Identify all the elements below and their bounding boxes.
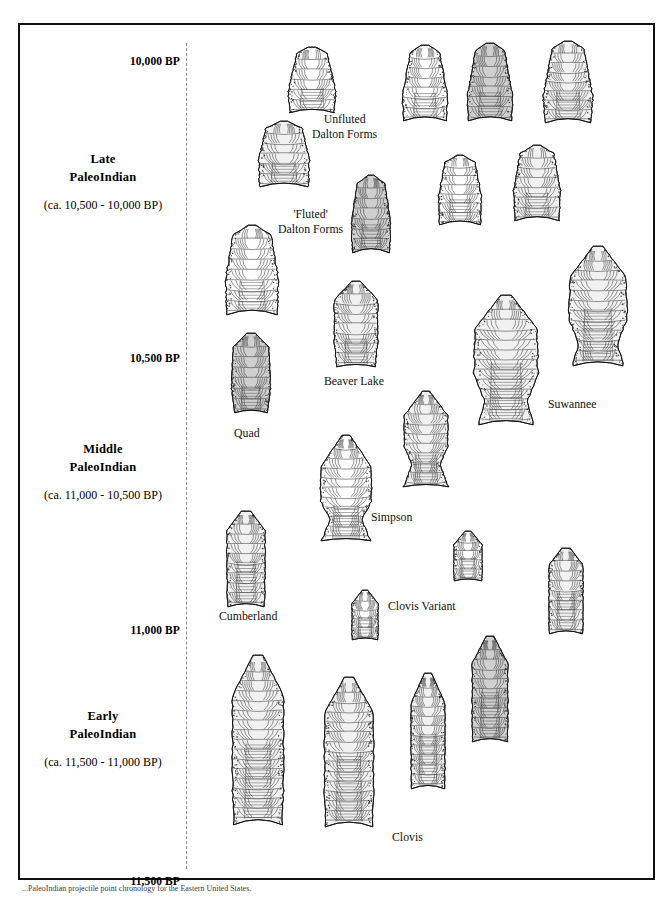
- period-name-line2-late: PaleoIndian: [20, 168, 186, 186]
- period-range-late: (ca. 10,500 - 10,000 BP): [20, 197, 186, 214]
- point-label-fluted-dalton: 'Fluted'Dalton Forms: [278, 207, 343, 236]
- projectile-point-dalton-unfluted-4: [542, 40, 594, 124]
- projectile-point-clovis-variant-1: [452, 530, 484, 582]
- axis-tick-10000: 10,000 BP: [20, 55, 180, 67]
- period-block-early: EarlyPaleoIndian(ca. 11,500 - 11,000 BP): [20, 707, 186, 772]
- projectile-point-cumberland-1: [225, 510, 267, 608]
- period-name-line1-middle: Middle: [20, 440, 186, 458]
- point-label-suwannee: Suwannee: [548, 397, 596, 412]
- point-label-line1-cumberland: Cumberland: [219, 609, 277, 624]
- point-label-line2-fluted-dalton: Dalton Forms: [278, 222, 343, 237]
- point-label-unfluted-dalton: UnflutedDalton Forms: [312, 112, 377, 141]
- projectile-point-dalton-fluted-2: [350, 174, 392, 254]
- projectile-point-dalton-fluted-1: [257, 120, 311, 188]
- projectile-point-suwannee-1: [472, 294, 540, 426]
- projectile-point-clovis-3: [409, 672, 447, 790]
- projectile-point-dalton-large-1: [224, 224, 280, 316]
- point-label-line1-beaver-lake: Beaver Lake: [324, 374, 384, 389]
- projectile-point-clovis-4: [470, 635, 510, 743]
- projectile-point-simpson-2: [402, 390, 450, 488]
- projectile-point-dalton-unfluted-2: [401, 44, 449, 122]
- projectile-point-dalton-fluted-4: [512, 144, 562, 222]
- point-label-simpson: Simpson: [371, 510, 412, 525]
- point-label-line1-simpson: Simpson: [371, 510, 412, 525]
- period-name-line2-middle: PaleoIndian: [20, 458, 186, 476]
- period-block-late: LatePaleoIndian(ca. 10,500 - 10,000 BP): [20, 150, 186, 215]
- projectile-point-suwannee-2: [567, 245, 629, 367]
- period-range-early: (ca. 11,500 - 11,000 BP): [20, 754, 186, 771]
- point-label-beaver-lake: Beaver Lake: [324, 374, 384, 389]
- projectile-point-clovis-2: [322, 676, 376, 828]
- period-name-line1-late: Late: [20, 150, 186, 168]
- projectile-point-clovis-variant-3: [547, 547, 585, 635]
- projectile-point-dalton-unfluted-1: [287, 46, 337, 114]
- projectile-point-beaver-lake-1: [332, 280, 380, 368]
- point-label-line1-clovis-variant: Clovis Variant: [388, 599, 456, 614]
- point-label-line1-clovis: Clovis: [392, 830, 423, 845]
- point-label-line1-suwannee: Suwannee: [548, 397, 596, 412]
- projectile-point-clovis-1: [230, 654, 286, 826]
- axis-tick-10500: 10,500 BP: [20, 352, 180, 364]
- projectile-point-dalton-fluted-3: [437, 154, 483, 226]
- period-name-line2-early: PaleoIndian: [20, 725, 186, 743]
- point-label-line1-unfluted-dalton: Unfluted: [312, 112, 377, 127]
- point-label-line2-unfluted-dalton: Dalton Forms: [312, 127, 377, 142]
- period-block-middle: MiddlePaleoIndian(ca. 11,000 - 10,500 BP…: [20, 440, 186, 505]
- point-label-quad: Quad: [234, 426, 260, 441]
- projectile-point-clovis-variant-2: [350, 589, 380, 641]
- period-name-line1-early: Early: [20, 707, 186, 725]
- time-axis-dashed-line: [186, 43, 187, 869]
- point-label-line1-quad: Quad: [234, 426, 260, 441]
- projectile-point-quad-1: [230, 332, 272, 414]
- point-label-line1-fluted-dalton: 'Fluted': [278, 207, 343, 222]
- point-label-clovis: Clovis: [392, 830, 423, 845]
- point-label-cumberland: Cumberland: [219, 609, 277, 624]
- projectile-point-dalton-unfluted-3: [466, 42, 514, 122]
- point-label-clovis-variant: Clovis Variant: [388, 599, 456, 614]
- axis-tick-11000: 11,000 BP: [20, 624, 180, 636]
- projectile-point-simpson-1: [318, 434, 374, 542]
- period-range-middle: (ca. 11,000 - 10,500 BP): [20, 487, 186, 504]
- figure-frame: 10,000 BP10,500 BP11,000 BP11,500 BP Lat…: [18, 23, 655, 880]
- figure-caption: ...PaleoIndian projectile point chronolo…: [22, 884, 652, 893]
